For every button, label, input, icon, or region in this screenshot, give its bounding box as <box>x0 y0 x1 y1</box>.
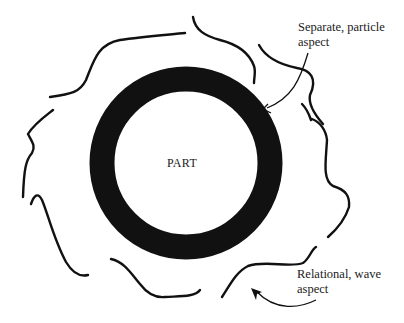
wave-aspect-label: Relational, wave aspect <box>297 267 381 297</box>
particle-aspect-label: Separate, particle aspect <box>298 20 385 50</box>
wave-label-line1: Relational, wave <box>297 267 381 282</box>
wave-line <box>31 195 88 275</box>
wave-line <box>302 104 311 120</box>
particle-wave-diagram: PART Separate, particle aspect Relationa… <box>0 0 404 323</box>
part-label: PART <box>167 156 197 171</box>
wave-arrowhead-icon <box>251 288 262 300</box>
wave-line <box>312 119 349 237</box>
particle-arrow <box>267 53 308 108</box>
particle-label-line1: Separate, particle <box>298 20 385 35</box>
wave-line <box>23 110 53 197</box>
wave-label-line2: aspect <box>297 282 381 297</box>
wave-line <box>111 259 200 297</box>
particle-label-line2: aspect <box>298 35 385 50</box>
